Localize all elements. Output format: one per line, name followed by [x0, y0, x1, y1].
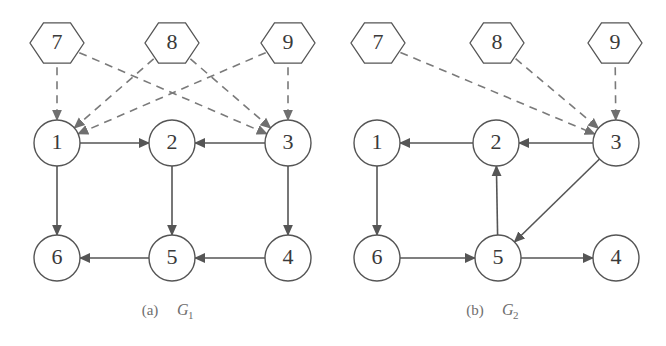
node-label: 5 — [493, 244, 504, 269]
node-label: 4 — [283, 244, 294, 269]
node-6-graph-a[interactable]: 6 — [34, 235, 80, 281]
node-1-graph-a[interactable]: 1 — [34, 120, 80, 166]
node-label: 8 — [492, 29, 503, 54]
node-label: 6 — [372, 244, 383, 269]
node-label: 1 — [372, 129, 383, 154]
edge-b5-to-b2 — [496, 166, 497, 235]
node-1-graph-b[interactable]: 1 — [354, 120, 400, 166]
node-label: 7 — [373, 29, 384, 54]
edges-layer — [57, 52, 616, 258]
node-label: 7 — [52, 29, 63, 54]
node-9-graph-a[interactable]: 9 — [261, 23, 315, 63]
edge-a8-to-a3 — [190, 59, 270, 128]
caption-subscript: 1 — [188, 309, 194, 321]
graph-figure-svg: 789123654789123654 (a)G1(b)G2 — [0, 0, 666, 346]
node-7-graph-b[interactable]: 7 — [351, 23, 405, 63]
node-9-graph-b[interactable]: 9 — [588, 23, 642, 63]
node-label: 9 — [283, 29, 294, 54]
node-label: 5 — [167, 244, 178, 269]
node-label: 8 — [167, 29, 178, 54]
edge-b9-to-b3 — [615, 67, 616, 120]
node-7-graph-a[interactable]: 7 — [30, 23, 84, 63]
node-label: 1 — [52, 129, 63, 154]
node-6-graph-b[interactable]: 6 — [354, 235, 400, 281]
node-label: 6 — [52, 244, 63, 269]
caption-prefix: (a) — [142, 302, 159, 319]
edge-a8-to-a1 — [74, 59, 153, 128]
node-5-graph-b[interactable]: 5 — [475, 235, 521, 281]
caption-prefix: (b) — [466, 302, 484, 319]
node-2-graph-b[interactable]: 2 — [473, 120, 519, 166]
nodes-layer: 789123654789123654 — [30, 23, 642, 281]
caption-subscript: 2 — [513, 309, 519, 321]
node-label: 3 — [283, 129, 294, 154]
node-8-graph-b[interactable]: 8 — [470, 23, 524, 63]
node-3-graph-b[interactable]: 3 — [593, 120, 639, 166]
node-3-graph-a[interactable]: 3 — [265, 120, 311, 166]
node-label: 2 — [491, 129, 502, 154]
node-8-graph-a[interactable]: 8 — [145, 23, 199, 63]
caption-graph-b: (b)G2 — [466, 301, 518, 321]
figure-container: 789123654789123654 (a)G1(b)G2 — [0, 0, 666, 346]
node-label: 3 — [611, 129, 622, 154]
node-4-graph-b[interactable]: 4 — [593, 235, 639, 281]
node-4-graph-a[interactable]: 4 — [265, 235, 311, 281]
node-label: 4 — [611, 244, 622, 269]
node-label: 9 — [610, 29, 621, 54]
caption-graph-a: (a)G1 — [142, 301, 194, 321]
node-label: 2 — [167, 129, 178, 154]
captions-layer: (a)G1(b)G2 — [142, 301, 519, 321]
node-5-graph-a[interactable]: 5 — [149, 235, 195, 281]
edge-b3-to-b5 — [514, 159, 599, 242]
node-2-graph-a[interactable]: 2 — [149, 120, 195, 166]
